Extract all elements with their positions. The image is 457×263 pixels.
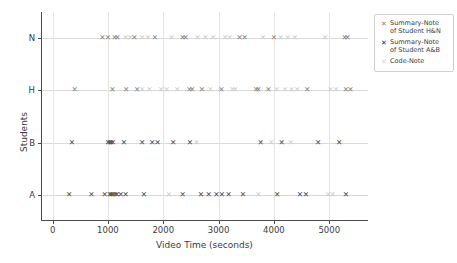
data-point: ✕	[315, 139, 321, 147]
data-point: ✕	[258, 139, 264, 147]
x-tick-mark	[219, 221, 220, 224]
gridline-vertical	[163, 12, 164, 221]
x-axis-title: Video Time (seconds)	[41, 240, 368, 250]
data-point: ✕	[127, 34, 133, 42]
data-point: ✕	[114, 34, 120, 42]
x-tick-label-3000: 3000	[208, 225, 230, 235]
data-point: ✕	[139, 139, 145, 147]
data-point: ✕	[265, 87, 271, 95]
data-point: ✕	[344, 34, 350, 42]
data-point: ✕	[69, 139, 75, 147]
data-point: ✕	[139, 87, 145, 95]
data-point: ✕	[225, 191, 231, 199]
data-point: ✕	[285, 34, 291, 42]
data-point: ✕	[207, 87, 213, 95]
data-point: ✕	[105, 34, 111, 42]
data-point: ✕	[271, 34, 277, 42]
data-point: ✕	[279, 139, 285, 147]
x-tick-label-5000: 5000	[318, 225, 340, 235]
legend-entry[interactable]: ✕Summary-Noteof Student H&N	[378, 19, 450, 35]
x-tick-mark	[274, 221, 275, 224]
data-point: ✕	[240, 191, 246, 199]
data-point: ✕	[274, 191, 280, 199]
data-point: ✕	[287, 139, 293, 147]
legend-entry[interactable]: ✕Code-Note	[378, 57, 450, 67]
data-point: ✕	[189, 87, 195, 95]
data-point: ✕	[194, 34, 200, 42]
data-point: ✕	[347, 87, 353, 95]
data-point: ✕	[146, 87, 152, 95]
x-tick-label-1000: 1000	[97, 225, 119, 235]
legend-label: Summary-Noteof Student A&B	[390, 38, 450, 54]
gridline-vertical	[53, 12, 54, 221]
legend-marker-icon: ✕	[378, 19, 390, 29]
data-point: ✕	[174, 87, 180, 95]
data-point: ✕	[163, 87, 169, 95]
data-point: ✕	[336, 139, 342, 147]
data-point: ✕	[166, 191, 172, 199]
data-point: ✕	[329, 191, 335, 199]
data-point: ✕	[109, 87, 115, 95]
y-tick-mark	[38, 143, 41, 144]
data-point: ✕	[66, 191, 72, 199]
x-tick-label-2000: 2000	[152, 225, 174, 235]
y-tick-label-N: N	[29, 33, 35, 43]
data-point: ✕	[110, 139, 116, 147]
data-point: ✕	[304, 87, 310, 95]
data-point: ✕	[155, 139, 161, 147]
data-point: ✕	[227, 34, 233, 42]
data-point: ✕	[333, 87, 339, 95]
y-tick-label-B: B	[29, 138, 35, 148]
data-point: ✕	[193, 139, 199, 147]
data-point: ✕	[198, 191, 204, 199]
data-point: ✕	[255, 191, 261, 199]
data-point: ✕	[88, 191, 94, 199]
data-point: ✕	[292, 34, 298, 42]
plot-area: ✕✕✕✕✕✕✕✕✕✕✕✕✕✕✕✕✕✕✕✕✕✕✕✕✕✕✕✕✕✕✕✕✕✕✕✕✕✕✕✕…	[41, 12, 368, 221]
data-point: ✕	[255, 87, 261, 95]
data-point: ✕	[274, 87, 280, 95]
data-point: ✕	[122, 191, 128, 199]
scatter-chart-figure: ✕✕✕✕✕✕✕✕✕✕✕✕✕✕✕✕✕✕✕✕✕✕✕✕✕✕✕✕✕✕✕✕✕✕✕✕✕✕✕✕…	[0, 0, 457, 263]
data-point: ✕	[72, 87, 78, 95]
legend-marker-icon: ✕	[378, 57, 390, 67]
y-tick-mark	[38, 90, 41, 91]
x-tick-mark	[163, 221, 164, 224]
data-point: ✕	[218, 87, 224, 95]
x-tick-mark	[329, 221, 330, 224]
y-tick-mark	[38, 38, 41, 39]
chart-legend: ✕Summary-Noteof Student H&N✕Summary-Note…	[374, 14, 454, 72]
data-point: ✕	[241, 34, 247, 42]
data-point: ✕	[121, 139, 127, 147]
data-point: ✕	[170, 139, 176, 147]
data-point: ✕	[268, 139, 274, 147]
data-point: ✕	[343, 191, 349, 199]
data-point: ✕	[205, 191, 211, 199]
data-point: ✕	[210, 34, 216, 42]
data-point: ✕	[303, 191, 309, 199]
x-tick-mark	[108, 221, 109, 224]
y-tick-label-H: H	[29, 85, 35, 95]
x-tick-mark	[53, 221, 54, 224]
data-point: ✕	[187, 139, 193, 147]
legend-marker-icon: ✕	[378, 38, 390, 48]
legend-entry[interactable]: ✕Summary-Noteof Student A&B	[378, 38, 450, 54]
data-point: ✕	[322, 34, 328, 42]
data-point: ✕	[202, 34, 208, 42]
data-point: ✕	[260, 34, 266, 42]
data-point: ✕	[152, 34, 158, 42]
y-axis-title: Students	[19, 111, 29, 151]
data-point: ✕	[182, 34, 188, 42]
x-tick-label-4000: 4000	[263, 225, 285, 235]
y-tick-label-A: A	[29, 190, 35, 200]
y-tick-mark	[38, 195, 41, 196]
data-point: ✕	[277, 34, 283, 42]
data-point: ✕	[145, 34, 151, 42]
data-point: ✕	[123, 87, 129, 95]
x-tick-label-0: 0	[50, 225, 55, 235]
data-point: ✕	[282, 87, 288, 95]
x-axis-spine	[41, 220, 368, 221]
data-point: ✕	[179, 191, 185, 199]
data-point: ✕	[219, 191, 225, 199]
data-point: ✕	[199, 87, 205, 95]
